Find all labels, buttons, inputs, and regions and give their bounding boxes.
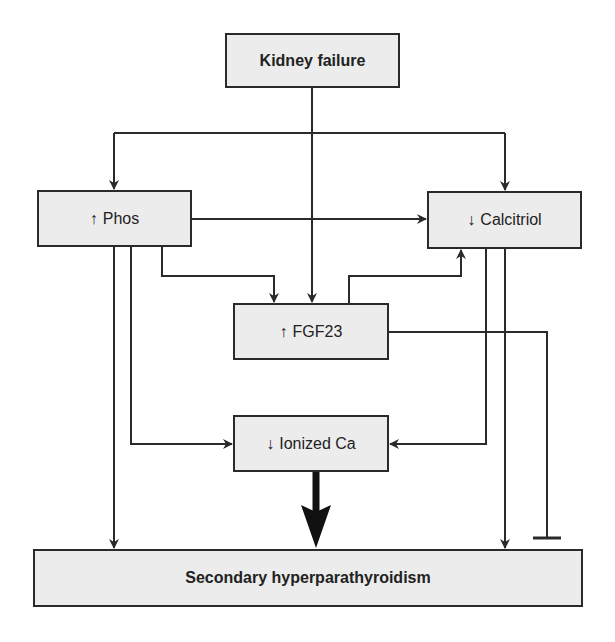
node-calcitriol: ↓ Calcitriol: [427, 191, 582, 249]
node-secondary-hyperparathyroidism: Secondary hyperparathyroidism: [33, 549, 583, 607]
up-arrow-icon: ↑: [280, 323, 288, 341]
node-label: Calcitriol: [480, 211, 541, 229]
edge-calcitriol-ionizedca: [390, 249, 486, 444]
node-fgf23: ↑ FGF23: [233, 303, 389, 360]
down-arrow-icon: ↓: [266, 435, 274, 453]
node-label: FGF23: [293, 323, 343, 341]
node-label: Phos: [103, 210, 139, 228]
node-label: Ionized Ca: [279, 435, 356, 453]
edge-fgf23-inhibits-secondary: [389, 332, 547, 538]
edge-phos-fgf23: [162, 247, 274, 302]
edge-ionizedca-secondary-strong: [301, 472, 331, 548]
node-label: Kidney failure: [260, 52, 366, 70]
node-phos: ↑ Phos: [37, 190, 192, 247]
node-ionized-ca: ↓ Ionized Ca: [233, 415, 389, 472]
edge-fgf23-calcitriol: [349, 250, 461, 303]
up-arrow-icon: ↑: [90, 210, 98, 228]
node-label: Secondary hyperparathyroidism: [185, 569, 430, 587]
down-arrow-icon: ↓: [467, 211, 475, 229]
node-kidney-failure: Kidney failure: [225, 33, 400, 88]
